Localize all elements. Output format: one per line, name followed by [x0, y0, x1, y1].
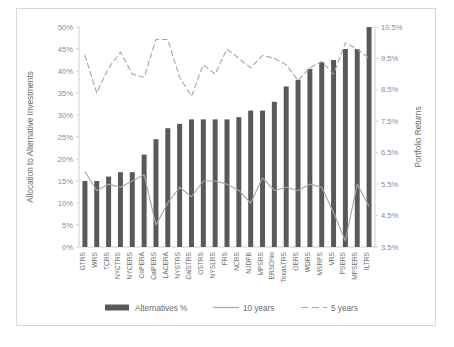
x-axis-tick-label: NYSLRS	[209, 251, 216, 278]
x-axis-tick-label: WDRS	[304, 251, 311, 272]
bar	[248, 111, 253, 247]
bar	[153, 139, 158, 247]
x-axis-tick-label: CoPERA	[138, 251, 145, 278]
y-axis-left-tick-label: 5%	[62, 221, 73, 230]
chart-figure: 0%5%10%15%20%25%30%35%40%45%50%3.5%4.5%5…	[16, 8, 436, 326]
y-axis-right-title: Portfolio Returns	[414, 107, 423, 168]
x-axis-tick-label: CalSTRS	[185, 251, 192, 279]
bar	[106, 177, 111, 247]
x-axis-tick-label: ERSOhio	[268, 252, 275, 280]
x-axis-tick-label: NYCTRS	[114, 251, 121, 279]
y-axis-left-tick-label: 0%	[62, 243, 73, 252]
chart-legend: Alternatives %10 years5 years	[105, 304, 358, 313]
bar	[213, 119, 218, 247]
x-axis-tick-label: ILTRS	[363, 251, 370, 270]
y-axis-left-tick-label: 45%	[58, 45, 73, 54]
x-axis-tick-label: NJDPB	[245, 251, 252, 273]
bar	[355, 49, 360, 247]
x-axis-tick-label: CalPERS	[150, 251, 157, 279]
y-axis-left-tick-label: 25%	[58, 133, 73, 142]
bar	[307, 69, 312, 247]
x-axis-tick-label: TexasTRS	[280, 251, 287, 282]
bar	[296, 80, 301, 247]
bar	[189, 119, 194, 247]
y-axis-left-tick-label: 50%	[58, 23, 73, 32]
bar	[236, 117, 241, 247]
y-axis-left-tick-label: 20%	[58, 155, 73, 164]
y-axis-right-tick-label: 7.5%	[381, 117, 399, 126]
bar-series	[82, 27, 371, 247]
legend-label: 10 years	[243, 304, 274, 313]
bar	[343, 49, 348, 247]
x-axis-tick-label: FRS	[221, 251, 228, 265]
x-axis-tick-label: MPSRS	[257, 251, 264, 275]
bar	[82, 181, 87, 247]
y-axis-left-tick-label: 35%	[58, 89, 73, 98]
x-axis-tick-label: TCRS	[103, 251, 110, 270]
y-axis-right-tick-label: 6.5%	[381, 148, 399, 157]
y-axis-left-tick-label: 30%	[58, 111, 73, 120]
y-axis-right-tick-label: 9.5%	[381, 54, 399, 63]
x-axis-tick-label: GTRS	[79, 251, 86, 270]
x-axis-tick-label: LACERA	[162, 251, 169, 278]
bar	[284, 86, 289, 247]
bar	[319, 62, 324, 247]
y-axis-right-tick-label: 10.5%	[381, 23, 403, 32]
y-axis-right-tick-label: 4.5%	[381, 211, 399, 220]
y-axis-right-tick-label: 8.5%	[381, 85, 399, 94]
bar	[142, 155, 147, 247]
x-axis-labels: GTRSWRSTCRSNYCTRSNYCERSCoPERACalPERSLACE…	[79, 251, 370, 282]
x-axis-tick-label: NYSTRS	[174, 251, 181, 278]
bar	[130, 172, 135, 247]
x-axis-tick-label: OSTRS	[197, 251, 204, 274]
chart-canvas: 0%5%10%15%20%25%30%35%40%45%50%3.5%4.5%5…	[17, 9, 435, 325]
bar	[331, 60, 336, 247]
line-series-5-years	[85, 40, 369, 97]
chart-plot-area: 0%5%10%15%20%25%30%35%40%45%50%3.5%4.5%5…	[17, 9, 435, 325]
x-axis-tick-label: NYCERS	[126, 251, 133, 279]
bar	[367, 27, 372, 247]
y-axis-right-tick-label: 5.5%	[381, 180, 399, 189]
x-axis-tick-label: MPSERS	[351, 251, 358, 279]
x-axis-tick-label: MSRPS	[316, 251, 323, 275]
bar	[272, 102, 277, 247]
y-axis-left-tick-label: 15%	[58, 177, 73, 186]
legend-label: 5 years	[331, 304, 358, 313]
y-axis-right-tick-label: 3.5%	[381, 243, 399, 252]
x-axis-tick-label: WRS	[91, 251, 98, 267]
y-axis-left-title: Allocation to Alternative Investments	[26, 71, 35, 203]
bar	[118, 172, 123, 247]
y-axis-left-tick-label: 40%	[58, 67, 73, 76]
legend-marker-bar	[105, 305, 129, 311]
x-axis-tick-label: VRS	[328, 251, 335, 265]
legend-label: Alternatives %	[135, 304, 187, 313]
x-axis-tick-label: OERS	[292, 251, 299, 270]
figure-caption	[16, 333, 446, 347]
x-axis-tick-label: NCRS	[233, 251, 240, 270]
bar	[177, 124, 182, 247]
y-axis-left-tick-label: 10%	[58, 199, 73, 208]
x-axis-tick-label: PSERS	[339, 251, 346, 274]
bar	[165, 128, 170, 247]
